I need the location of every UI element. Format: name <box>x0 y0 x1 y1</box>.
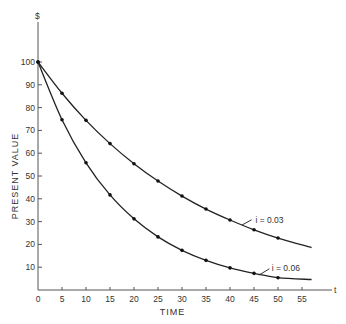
x-end-label: t <box>334 285 337 295</box>
annotation-leader <box>259 269 270 275</box>
data-point <box>108 142 112 146</box>
y-tick-label: 50 <box>26 171 36 181</box>
y-tick-label: 20 <box>26 239 36 249</box>
y-tick-label: 40 <box>26 194 36 204</box>
x-tick-label: 55 <box>297 294 307 304</box>
y-tick-label: 90 <box>26 80 36 90</box>
data-point <box>156 179 160 183</box>
data-point <box>276 276 280 280</box>
data-point <box>180 194 184 198</box>
data-point <box>252 272 256 276</box>
x-tick-label: 35 <box>201 294 211 304</box>
y-axis-label: PRESENT VALUE <box>10 133 20 220</box>
y-tick-label: 60 <box>26 148 36 158</box>
x-tick-label: 30 <box>177 294 187 304</box>
data-point <box>228 266 232 270</box>
x-tick-label: 20 <box>129 294 139 304</box>
data-point <box>156 235 160 239</box>
data-point <box>204 207 208 211</box>
series-line-i-0-06 <box>38 62 312 280</box>
y-unit-label: $ <box>35 11 40 21</box>
data-point <box>204 259 208 263</box>
data-point <box>132 162 136 166</box>
y-tick-label: 10 <box>26 262 36 272</box>
data-point <box>60 118 64 122</box>
present-value-chart: $t05101520253035404550551020304050607080… <box>0 0 346 324</box>
data-point <box>228 218 232 222</box>
data-point <box>276 236 280 240</box>
data-point <box>84 161 88 165</box>
data-point <box>108 193 112 197</box>
y-tick-label: 100 <box>21 57 35 67</box>
y-tick-label: 80 <box>26 103 36 113</box>
data-point <box>252 228 256 232</box>
data-point <box>36 60 40 64</box>
annotation-leader <box>242 220 252 225</box>
y-tick-label: 30 <box>26 217 36 227</box>
x-tick-label: 40 <box>225 294 235 304</box>
x-tick-label: 45 <box>249 294 259 304</box>
series-label-i-0-03: i = 0.03 <box>255 215 283 225</box>
data-point <box>60 91 64 95</box>
data-point <box>132 217 136 221</box>
x-tick-label: 50 <box>273 294 283 304</box>
x-axis-label: TIME <box>160 307 186 317</box>
x-tick-label: 15 <box>105 294 115 304</box>
y-tick-label: 70 <box>26 125 36 135</box>
x-tick-label: 5 <box>60 294 65 304</box>
series-label-i-0-06: i = 0.06 <box>272 263 300 273</box>
x-tick-label: 0 <box>36 294 41 304</box>
x-tick-label: 25 <box>153 294 163 304</box>
x-tick-label: 10 <box>81 294 91 304</box>
data-point <box>84 119 88 123</box>
data-point <box>180 249 184 253</box>
